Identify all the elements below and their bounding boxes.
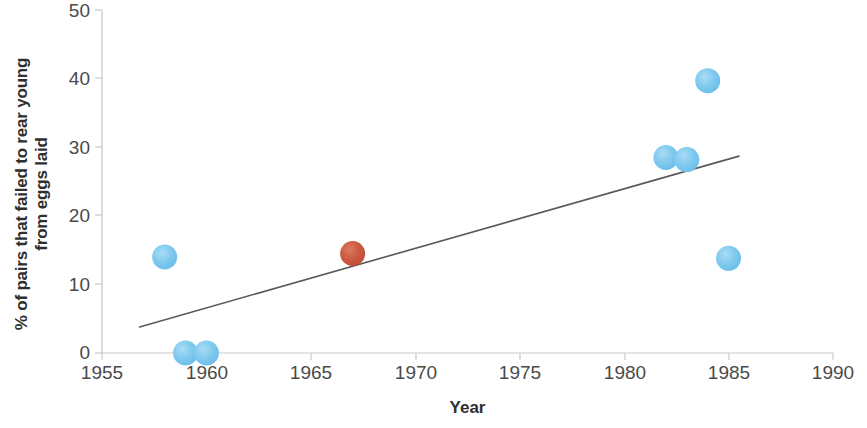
plot-area (0, 0, 867, 428)
data-point (152, 244, 177, 269)
data-point (674, 147, 699, 172)
data-point (716, 246, 741, 271)
data-point (340, 241, 365, 266)
scatter-chart: % of pairs that failed to rear young fro… (0, 0, 867, 428)
data-point-group (152, 68, 741, 365)
data-point (695, 68, 720, 93)
trendline (140, 156, 739, 327)
data-point (194, 341, 219, 366)
y-axis-line (95, 10, 102, 353)
